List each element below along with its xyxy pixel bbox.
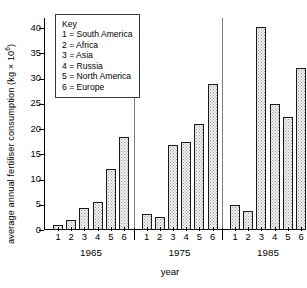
y-axis-title-suffix: ) bbox=[6, 44, 16, 47]
bar bbox=[270, 104, 280, 230]
x-axis-group-label: 1965 bbox=[53, 247, 129, 258]
group-separator-tick bbox=[134, 228, 135, 240]
legend-key-box: Key 1 = South America2 = Africa3 = Asia4… bbox=[55, 14, 140, 98]
bar bbox=[181, 142, 191, 230]
y-axis-tick-label: 10 bbox=[31, 173, 41, 184]
x-axis-tick-label: 6 bbox=[296, 231, 306, 242]
bar-chart-figure: average annual fertiliser consumption (k… bbox=[0, 0, 307, 288]
x-axis-tick-label: 6 bbox=[208, 231, 218, 242]
x-axis-tick-label: 4 bbox=[270, 231, 280, 242]
legend-entry: 1 = South America bbox=[62, 29, 132, 39]
legend-entry: 2 = Africa bbox=[62, 40, 132, 50]
x-axis-tick-label: 2 bbox=[66, 231, 76, 242]
y-axis-title-container: average annual fertiliser consumption (k… bbox=[0, 0, 26, 248]
y-axis-tick-label: 20 bbox=[31, 123, 41, 134]
x-axis-tick-label: 4 bbox=[181, 231, 191, 242]
group-separator-tick bbox=[222, 228, 223, 240]
bar bbox=[194, 124, 204, 230]
x-axis-tick-label: 5 bbox=[106, 231, 116, 242]
y-axis-tick-label: 0 bbox=[36, 224, 41, 235]
x-axis-group-labels: 196519751985 bbox=[44, 247, 296, 261]
group-separator-line bbox=[222, 18, 223, 230]
legend-entry: 5 = North America bbox=[62, 71, 132, 81]
x-axis-tick-label: 1 bbox=[230, 231, 240, 242]
bar bbox=[106, 169, 116, 230]
bar bbox=[283, 117, 293, 230]
x-axis-tick-label: 3 bbox=[79, 231, 89, 242]
x-axis-tick-label: 1 bbox=[142, 231, 152, 242]
y-axis-tick-label: 15 bbox=[31, 148, 41, 159]
bar bbox=[208, 84, 218, 230]
legend-entries: 1 = South America2 = Africa3 = Asia4 = R… bbox=[62, 29, 132, 92]
legend-entry: 3 = Asia bbox=[62, 50, 132, 60]
y-axis-tick-label: 25 bbox=[31, 97, 41, 108]
x-axis-tick-label: 5 bbox=[283, 231, 293, 242]
y-axis-title: average annual fertiliser consumption (k… bbox=[6, 44, 16, 244]
y-axis-title-exponent: 6 bbox=[4, 47, 11, 51]
y-axis-tick-label: 5 bbox=[36, 198, 41, 209]
x-axis-tick-label: 1 bbox=[53, 231, 63, 242]
y-axis-tick-label: 30 bbox=[31, 72, 41, 83]
bar bbox=[296, 68, 306, 230]
legend-entry: 6 = Europe bbox=[62, 82, 132, 92]
x-axis-tick-label: 3 bbox=[256, 231, 266, 242]
y-axis-tick-label: 35 bbox=[31, 47, 41, 58]
bar bbox=[168, 145, 178, 230]
x-axis-tick-label: 5 bbox=[194, 231, 204, 242]
x-axis-group-label: 1975 bbox=[142, 247, 218, 258]
x-axis-tick-label: 2 bbox=[243, 231, 253, 242]
x-axis-tick-label: 4 bbox=[93, 231, 103, 242]
x-axis-tick-label: 2 bbox=[155, 231, 165, 242]
bar bbox=[119, 137, 129, 230]
bar bbox=[93, 202, 103, 230]
legend-entry: 4 = Russia bbox=[62, 61, 132, 71]
y-axis-title-text: average annual fertiliser consumption (k… bbox=[6, 51, 16, 244]
y-axis-tick-label: 40 bbox=[31, 22, 41, 33]
x-axis-title: year bbox=[44, 266, 296, 277]
x-axis-tick-labels: 123456123456123456 bbox=[44, 231, 296, 245]
x-axis-group-label: 1985 bbox=[230, 247, 306, 258]
legend-title: Key bbox=[62, 19, 132, 29]
x-axis-tick-label: 3 bbox=[168, 231, 178, 242]
bar bbox=[256, 27, 266, 230]
x-axis-tick-label: 6 bbox=[119, 231, 129, 242]
